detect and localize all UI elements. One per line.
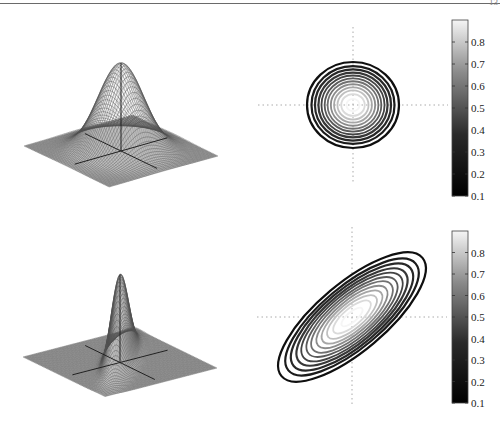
colorbar-tick-label: 0.8 xyxy=(471,36,485,48)
colorbar-tick-label: 0.7 xyxy=(471,58,485,70)
figure: 0.80.70.60.50.40.30.20.1 0.80.70.60.50.4… xyxy=(0,0,500,421)
colorbar-top: 0.80.70.60.50.40.30.20.1 xyxy=(452,20,485,202)
colorbar-tick-label: 0.1 xyxy=(471,397,485,409)
colorbar-tick-label: 0.2 xyxy=(471,168,485,180)
colorbar-tick-label: 0.5 xyxy=(471,102,485,114)
surface-plot-correlated xyxy=(23,274,217,397)
colorbar-tick-label: 0.1 xyxy=(471,190,485,202)
colorbar-bottom: 0.80.70.60.50.40.30.20.1 xyxy=(452,231,485,409)
surface-plot-isotropic xyxy=(24,63,218,187)
colorbar-tick-label: 0.3 xyxy=(471,354,485,366)
colorbar-tick-label: 0.8 xyxy=(471,247,485,259)
colorbar-tick-label: 0.4 xyxy=(471,124,485,136)
contour-plot-correlated xyxy=(257,227,447,407)
colorbar-tick-label: 0.4 xyxy=(471,333,485,345)
colorbar-tick-label: 0.7 xyxy=(471,268,485,280)
colorbar-tick-label: 0.6 xyxy=(471,290,485,302)
colorbar-tick-label: 0.3 xyxy=(471,146,485,158)
colorbar-tick-label: 0.5 xyxy=(471,311,485,323)
contour-plot-isotropic xyxy=(258,27,448,183)
colorbar-tick-label: 0.6 xyxy=(471,80,485,92)
colorbar-tick-label: 0.2 xyxy=(471,376,485,388)
